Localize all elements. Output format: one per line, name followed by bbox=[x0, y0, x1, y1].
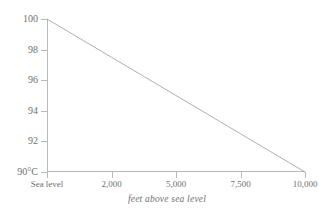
y-axis-tick-label: 94 bbox=[28, 106, 38, 116]
x-axis-tick bbox=[241, 172, 242, 178]
x-axis-title: feet above sea level bbox=[0, 194, 334, 204]
y-axis-tick-label: 92 bbox=[28, 136, 38, 146]
data-line-boiling-point bbox=[47, 19, 305, 172]
x-axis-tick-label: 10,000 bbox=[265, 179, 334, 189]
y-axis-tick-label: 98 bbox=[28, 45, 38, 55]
chart-container: 90°C92949698100 Sea level2,0005,0007,500… bbox=[0, 0, 334, 214]
x-axis-tick bbox=[176, 172, 177, 178]
y-axis-tick-label: 96 bbox=[28, 75, 38, 85]
data-series-svg bbox=[47, 19, 305, 172]
x-axis-tick bbox=[112, 172, 113, 178]
y-axis-tick-label: 100 bbox=[23, 14, 38, 24]
x-axis-tick bbox=[47, 172, 48, 178]
x-axis-tick bbox=[305, 172, 306, 178]
plot-area bbox=[47, 19, 305, 172]
y-axis-tick-label: 90°C bbox=[17, 167, 38, 177]
